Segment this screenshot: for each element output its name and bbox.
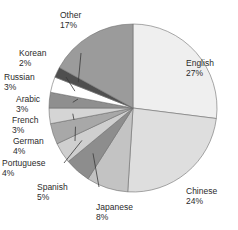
pie-slice-label: Chinese24% <box>186 186 217 206</box>
pie-slice-label-percent: 4% <box>13 146 44 156</box>
pie-slice-label-name: Chinese <box>186 186 217 196</box>
pie-slice-label-percent: 3% <box>16 104 40 114</box>
pie-slice-label-percent: 3% <box>12 125 38 135</box>
pie-slice-label-name: German <box>13 136 44 146</box>
pie-slice-label: Arabic3% <box>16 94 40 114</box>
pie-slice-label-name: Russian <box>4 72 35 82</box>
pie-slice-label-name: Korean <box>19 48 46 58</box>
pie-slice <box>128 108 217 192</box>
pie-slice-label: Russian3% <box>4 72 35 92</box>
pie-slice-label: Other17% <box>60 10 81 30</box>
pie-slice-label: German4% <box>13 136 44 156</box>
pie-slice-label-name: Spanish <box>37 182 68 192</box>
pie-slice-label-percent: 2% <box>19 58 46 68</box>
pie-slice-label: Korean2% <box>19 48 46 68</box>
pie-slice-label: Japanese8% <box>96 202 133 222</box>
pie-slice-label-name: English <box>186 58 214 68</box>
pie-slice-label-percent: 27% <box>186 68 214 78</box>
pie-slice-label: Portuguese4% <box>2 158 45 178</box>
pie-slice-label-percent: 3% <box>4 82 35 92</box>
pie-slice-label-percent: 24% <box>186 196 217 206</box>
pie-slice-label: English27% <box>186 58 214 78</box>
pie-slice-label-percent: 17% <box>60 20 81 30</box>
pie-chart: English27%Chinese24%Japanese8%Spanish5%P… <box>0 0 238 230</box>
pie-slice-label-name: French <box>12 115 38 125</box>
pie-slice-label: Spanish5% <box>37 182 68 202</box>
pie-slice-label-percent: 8% <box>96 212 133 222</box>
pie-slice-label-name: Arabic <box>16 94 40 104</box>
pie-slice-label-name: Japanese <box>96 202 133 212</box>
pie-slice-label-name: Other <box>60 10 81 20</box>
pie-slice-label-percent: 5% <box>37 192 68 202</box>
pie-slice-label-name: Portuguese <box>2 158 45 168</box>
pie-slice-label: French3% <box>12 115 38 135</box>
pie-slice-label-percent: 4% <box>2 168 45 178</box>
pie-slice-group <box>49 24 217 192</box>
